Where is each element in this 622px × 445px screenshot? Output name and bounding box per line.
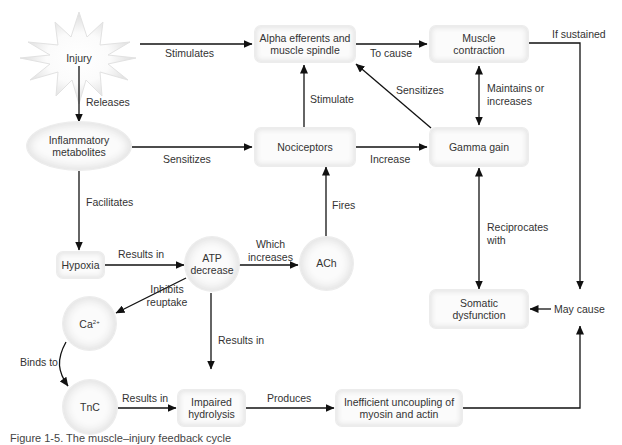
edge-label-inhibits-reuptake: Inhibits reuptake — [142, 283, 192, 308]
node-injury: Injury — [50, 48, 108, 68]
edge-muscle-maycause — [529, 43, 580, 289]
node-gamma-gain: Gamma gain — [430, 128, 528, 166]
edge-label-facilitates: Facilitates — [86, 196, 133, 209]
node-injury-label: Injury — [66, 52, 92, 65]
node-impaired-hydrolysis: Impaired hydrolysis — [178, 390, 245, 426]
node-calcium: Ca2+ — [63, 297, 116, 350]
edge-label-results-in-atp: Results in — [218, 334, 264, 347]
edge-label-to-cause: To cause — [370, 47, 412, 60]
edge-label-binds-to: Binds to — [20, 356, 58, 369]
node-ach: ACh — [300, 237, 353, 290]
node-muscle-label: Muscle contraction — [444, 32, 514, 57]
diagram-canvas: Injury Alpha efferents and muscle spindl… — [0, 0, 622, 445]
node-inflammatory-label: Inflammatory metabolites — [39, 134, 119, 159]
node-gamma-label: Gamma gain — [449, 141, 509, 154]
node-ach-label: ACh — [316, 257, 336, 270]
calcium-charge: 2+ — [93, 319, 100, 325]
edge-label-if-sustained: If sustained — [552, 28, 606, 41]
node-tnc-label: TnC — [80, 401, 100, 414]
node-inefficient-label: Inefficient uncoupling of myosin and act… — [337, 396, 461, 421]
edge-label-increase: Increase — [370, 153, 410, 166]
edge-label-fires: Fires — [332, 199, 355, 212]
edge-label-maintains: Maintains or increases — [487, 82, 547, 107]
node-atp-label: ATP decrease — [190, 252, 234, 277]
node-muscle-contraction: Muscle contraction — [430, 26, 528, 62]
node-tnc: TnC — [63, 380, 117, 434]
node-nociceptors: Nociceptors — [255, 128, 355, 166]
node-alpha-label: Alpha efferents and muscle spindle — [255, 32, 355, 57]
edge-ca-tnc — [59, 342, 68, 386]
edge-label-sensitizes-gamma: Sensitizes — [396, 84, 444, 97]
edge-label-releases: Releases — [86, 96, 130, 109]
edge-label-produces: Produces — [267, 392, 311, 405]
edge-label-stimulate: Stimulate — [310, 93, 354, 106]
edge-label-which-increases: Which increases — [243, 238, 298, 263]
node-atp-decrease: ATP decrease — [185, 237, 239, 291]
edge-label-may-cause: May cause — [554, 303, 605, 316]
edge-inefficient-maycause — [463, 326, 580, 408]
edge-label-results-in-tnc: Results in — [122, 392, 168, 405]
node-hypoxia: Hypoxia — [57, 252, 104, 278]
node-somatic-label: Somatic dysfunction — [444, 297, 514, 322]
figure-caption: Figure 1-5. The muscle–injury feedback c… — [10, 432, 231, 444]
node-inflammatory-metabolites: Inflammatory metabolites — [27, 122, 131, 170]
calcium-symbol: Ca — [79, 318, 92, 330]
node-inefficient-uncoupling: Inefficient uncoupling of myosin and act… — [336, 390, 462, 426]
edge-label-results-in-hypoxia: Results in — [118, 248, 164, 261]
edge-label-sensitizes-inflammatory: Sensitizes — [163, 153, 211, 166]
node-nociceptors-label: Nociceptors — [277, 141, 332, 154]
node-somatic-dysfunction: Somatic dysfunction — [430, 290, 528, 328]
edge-label-stimulates: Stimulates — [165, 47, 214, 60]
node-hypoxia-label: Hypoxia — [62, 259, 100, 272]
edge-label-reciprocates: Reciprocates with — [487, 221, 549, 246]
node-alpha-efferents: Alpha efferents and muscle spindle — [255, 26, 355, 62]
node-calcium-label: Ca2+ — [79, 316, 99, 331]
node-impaired-label: Impaired hydrolysis — [182, 396, 242, 421]
